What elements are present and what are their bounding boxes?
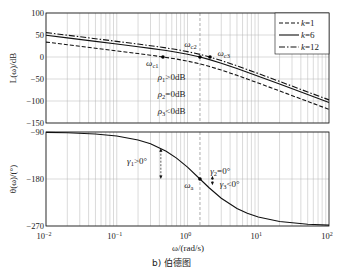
omega-c2-label: ωc2 [184, 39, 197, 50]
omega-c1-label: ωc1 [146, 58, 159, 69]
omega-c1-marker [161, 55, 165, 59]
subscript: c2 [191, 43, 197, 50]
y-tick-label: 100 [31, 8, 44, 18]
legend-value: =6 [305, 30, 315, 40]
tick-base: 10 [37, 231, 46, 241]
y-axis-label: θ(ω)/(°) [8, 165, 18, 193]
relation: =0° [217, 166, 231, 176]
legend: k=1k=6k=12 [275, 13, 329, 54]
figure-caption: b) 伯德图 [0, 256, 343, 269]
y-tick-label: −270 [26, 221, 44, 231]
bode-plot-svg: 100500−50−100−150ωc1ωc2ωc3ρ1>0dBρ2=0dBρ3… [0, 0, 343, 272]
y-tick-label: −90 [31, 127, 44, 137]
tick-exponent: −1 [116, 231, 122, 237]
relation: =0dB [165, 89, 185, 99]
arrow-head-down-icon [211, 182, 214, 186]
bode-plot-figure: 100500−50−100−150ωc1ωc2ωc3ρ1>0dBρ2=0dBρ3… [0, 0, 343, 272]
y-tick-label: −100 [26, 96, 44, 106]
y-tick-label: 0 [40, 52, 44, 62]
y-tick-label: 50 [36, 30, 45, 40]
gamma3-label: γ3<0° [220, 179, 240, 190]
x-axis-label: ω/(rad/s) [0, 243, 343, 253]
tick-exponent: 0 [188, 231, 191, 237]
omega-a-label: ωa [184, 180, 193, 191]
subscript: a [191, 184, 194, 191]
tick-exponent: 1 [259, 231, 262, 237]
gamma3-arrow [211, 176, 214, 185]
relation: <0° [226, 179, 240, 189]
y-tick-label: −50 [31, 74, 44, 84]
omega-a-marker [198, 177, 202, 181]
tick-exponent: −2 [45, 231, 51, 237]
x-tick-label: 101 [251, 231, 263, 242]
y-tick-label: −180 [26, 174, 44, 184]
relation: >0° [134, 156, 148, 166]
gamma2-label: γ2=0° [210, 166, 230, 177]
tick-base: 10 [251, 231, 260, 241]
tick-base: 10 [321, 231, 330, 241]
legend-label: k=12 [301, 42, 319, 52]
gamma1-arrow [159, 148, 162, 179]
x-tick-label: 100 [180, 231, 192, 242]
legend-value: =12 [305, 42, 319, 52]
relation: <0dB [165, 106, 185, 116]
relation: >0dB [165, 72, 185, 82]
phase-panel: −90−180−270γ1>0°ωaγ2=0°γ3<0°θ(ω)/(°) [8, 127, 329, 231]
legend-label: k=6 [301, 30, 315, 40]
x-tick-label: 102 [321, 231, 333, 242]
y-axis-label: L(ω)/dB [8, 53, 18, 83]
tick-base: 10 [107, 231, 116, 241]
x-tick-label: 10−2 [37, 231, 52, 242]
rho2-label: ρ2=0dB [157, 89, 186, 100]
tick-base: 10 [180, 231, 189, 241]
arrow-head-down-icon [159, 176, 162, 180]
gamma1-label: γ1>0° [127, 156, 147, 167]
rho3-label: ρ3<0dB [157, 106, 186, 117]
omega-c3-marker [208, 55, 212, 59]
tick-exponent: 2 [330, 231, 333, 237]
legend-value: =1 [305, 18, 315, 28]
rho1-label: ρ1>0dB [157, 72, 186, 83]
omega-c3-label: ωc3 [217, 48, 230, 59]
omega-c2-marker [198, 55, 202, 59]
subscript: c1 [152, 62, 158, 69]
legend-label: k=1 [301, 18, 315, 28]
x-tick-label: 10−1 [107, 231, 122, 242]
subscript: c3 [224, 52, 230, 59]
